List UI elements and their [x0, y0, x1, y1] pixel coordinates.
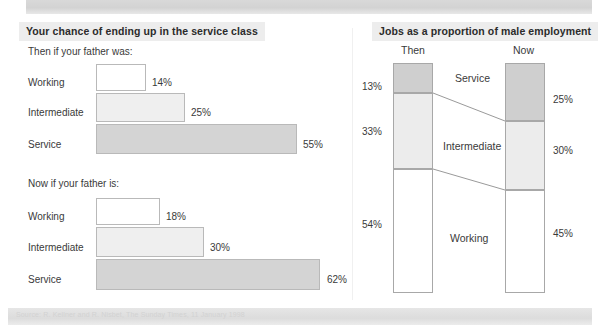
right-label-intermediate: Intermediate [443, 140, 501, 152]
left-bar-value-now-service: 62% [327, 274, 347, 285]
stacked-bar-now [505, 63, 545, 293]
left-section-heading-now: Now if your father is: [28, 178, 119, 189]
left-panel-title: Your chance of ending up in the service … [19, 22, 265, 41]
stacked-bar-then [393, 63, 433, 293]
left-bar-then-working [96, 64, 146, 91]
left-row-label-now-service: Service [28, 274, 61, 285]
right-panel-title: Jobs as a proportion of male employment [372, 22, 598, 41]
left-bar-value-now-intermediate: 30% [210, 242, 230, 253]
left-bar-value-then-intermediate: 25% [191, 107, 211, 118]
stack-now-segment-working [505, 190, 545, 293]
left-bar-value-then-working: 14% [152, 77, 172, 88]
right-label-service: Service [455, 72, 490, 84]
stack-now-value-intermediate: 30% [553, 145, 573, 156]
stack-now-value-working: 45% [553, 228, 573, 239]
left-row-label-now-intermediate: Intermediate [28, 242, 84, 253]
stack-then-segment-service [393, 63, 433, 93]
stack-then-value-intermediate: 33% [362, 126, 382, 137]
right-column-header-then: Then [401, 44, 425, 56]
left-bar-now-service [96, 259, 320, 290]
left-row-label-then-working: Working [28, 77, 65, 88]
stack-then-value-working: 54% [362, 219, 382, 230]
panel-divider [352, 28, 353, 300]
source-note: Source: R. Kellner and R. Nisbet, The Su… [16, 311, 346, 318]
stack-then-value-service: 13% [362, 81, 382, 92]
left-bar-then-service [96, 124, 297, 154]
right-column-header-now: Now [513, 44, 534, 56]
left-section-heading-then: Then if your father was: [28, 46, 133, 57]
stack-now-segment-service [505, 63, 545, 121]
stack-now-segment-intermediate [505, 121, 545, 190]
top-decorative-band [26, 0, 592, 14]
left-bar-now-intermediate [96, 227, 204, 257]
stack-then-segment-intermediate [393, 93, 433, 169]
left-bar-value-now-working: 18% [166, 211, 186, 222]
right-label-working: Working [450, 232, 488, 244]
left-bar-then-intermediate [96, 93, 185, 122]
left-bar-now-working [96, 198, 160, 225]
left-row-label-now-working: Working [28, 211, 65, 222]
stack-then-segment-working [393, 169, 433, 293]
left-row-label-then-service: Service [28, 139, 61, 150]
left-bar-value-then-service: 55% [303, 139, 323, 150]
left-row-label-then-intermediate: Intermediate [28, 107, 84, 118]
stack-now-value-service: 25% [553, 94, 573, 105]
